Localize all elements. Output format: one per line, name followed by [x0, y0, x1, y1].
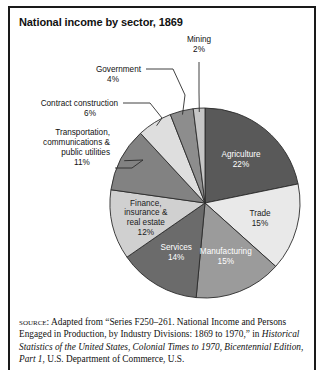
- page-title: National income by sector, 1869: [19, 16, 183, 28]
- source-note: source: Adapted from “Series F250–261. N…: [19, 316, 307, 366]
- slice-callout-label: Contract construction6%: [41, 99, 119, 118]
- frame-border-right: [314, 6, 316, 370]
- source-line-4-tail: , U.S. Department of Commerce, U.S.: [43, 354, 185, 364]
- source-line-3-lead: in: [252, 329, 262, 339]
- pie-chart-svg: Agriculture22%Trade15%Manufacturing15%Se…: [10, 30, 314, 308]
- figure-panel: National income by sector, 1869 Agricult…: [0, 0, 324, 376]
- leader-line: [146, 69, 185, 115]
- pie-chart: Agriculture22%Trade15%Manufacturing15%Se…: [10, 30, 314, 308]
- source-prefix: source:: [19, 316, 49, 327]
- slice-callout-label: Mining2%: [187, 35, 212, 54]
- source-line-1: Adapted from “Series F250–261. National …: [49, 317, 255, 327]
- slice-label: Trade15%: [249, 209, 271, 228]
- slice-callout-label: Transportation,communications &public ut…: [43, 128, 110, 167]
- frame-border-top: [8, 6, 316, 8]
- slice-callout-label: Government4%: [96, 65, 142, 84]
